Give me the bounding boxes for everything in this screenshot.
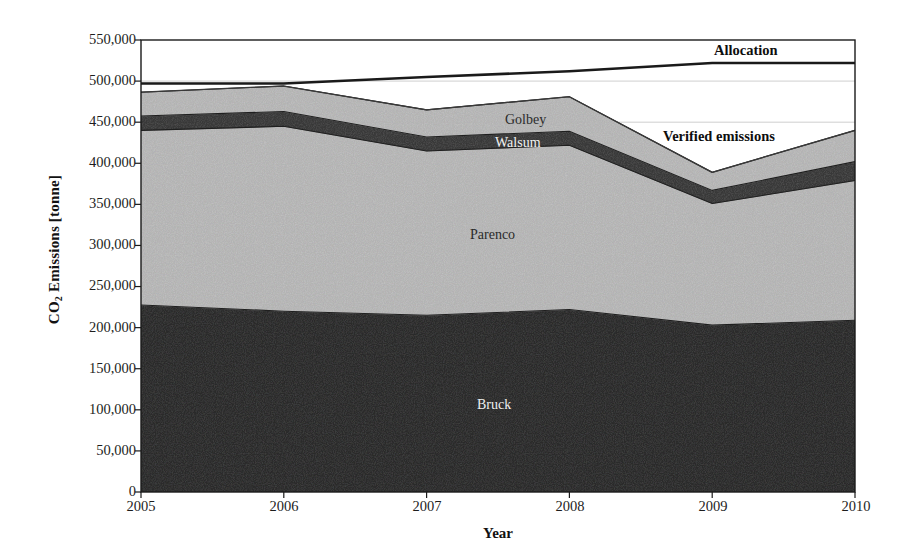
- chart-root: CO2 Emissions [tonne] 550,000 500,000 45…: [0, 0, 910, 559]
- area-bruck: [141, 305, 855, 492]
- plot-area: [0, 0, 910, 559]
